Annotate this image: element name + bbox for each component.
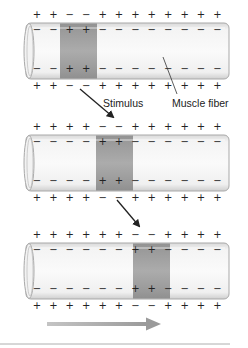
negative-charge: − — [82, 80, 90, 91]
negative-charge: − — [213, 24, 221, 35]
negative-charge: − — [180, 175, 188, 186]
negative-charge: − — [213, 63, 221, 74]
positive-charge: + — [180, 192, 188, 203]
negative-charge: − — [33, 283, 41, 294]
negative-charge: − — [98, 121, 106, 132]
positive-charge: + — [98, 229, 106, 240]
negative-charge: − — [33, 24, 41, 35]
stimulus-label: Stimulus — [103, 97, 143, 109]
negative-charge: − — [180, 63, 188, 74]
negative-charge: − — [131, 229, 139, 240]
positive-charge: + — [98, 80, 106, 91]
negative-charge: − — [213, 175, 221, 186]
positive-charge: + — [180, 9, 188, 20]
negative-charge: − — [164, 136, 172, 147]
negative-charge: − — [197, 283, 205, 294]
positive-charge: + — [98, 136, 106, 147]
positive-charge: + — [49, 192, 57, 203]
positive-charge: + — [33, 121, 41, 132]
negative-charge: − — [131, 175, 139, 186]
positive-charge: + — [49, 300, 57, 311]
negative-charge: − — [180, 244, 188, 255]
negative-charge: − — [98, 244, 106, 255]
negative-charge: − — [213, 136, 221, 147]
negative-charge: − — [197, 63, 205, 74]
propagation-direction-arrow — [47, 318, 161, 331]
negative-charge: − — [197, 136, 205, 147]
positive-charge: + — [49, 9, 57, 20]
negative-charge: − — [115, 192, 123, 203]
positive-charge: + — [33, 9, 41, 20]
negative-charge: − — [148, 175, 156, 186]
positive-charge: + — [148, 121, 156, 132]
negative-charge: − — [197, 244, 205, 255]
positive-charge: + — [148, 9, 156, 20]
positive-charge: + — [82, 192, 90, 203]
negative-charge: − — [98, 24, 106, 35]
positive-charge: + — [82, 300, 90, 311]
positive-charge: + — [197, 229, 205, 240]
negative-charge: − — [33, 175, 41, 186]
outside-top-charges: ++−−++++++++ — [33, 9, 222, 20]
positive-charge: + — [98, 175, 106, 186]
negative-charge: − — [33, 63, 41, 74]
negative-charge: − — [180, 24, 188, 35]
positive-charge: + — [66, 24, 74, 35]
negative-charge: − — [164, 283, 172, 294]
positive-charge: + — [49, 229, 57, 240]
negative-charge: − — [148, 24, 156, 35]
positive-charge: + — [213, 121, 221, 132]
negative-charge: − — [82, 175, 90, 186]
negative-charge: − — [98, 283, 106, 294]
positive-charge: + — [82, 24, 90, 35]
negative-charge: − — [148, 63, 156, 74]
positive-charge: + — [131, 244, 139, 255]
positive-charge: + — [164, 80, 172, 91]
positive-charge: + — [197, 121, 205, 132]
positive-charge: + — [49, 121, 57, 132]
negative-charge: − — [115, 63, 123, 74]
negative-charge: − — [33, 136, 41, 147]
negative-charge: − — [49, 244, 57, 255]
positive-charge: + — [33, 300, 41, 311]
positive-charge: + — [66, 121, 74, 132]
negative-charge: − — [131, 63, 139, 74]
positive-charge: + — [213, 192, 221, 203]
negative-charge: − — [148, 229, 156, 240]
positive-charge: + — [213, 229, 221, 240]
positive-charge: + — [33, 192, 41, 203]
positive-charge: + — [66, 63, 74, 74]
negative-charge: − — [197, 175, 205, 186]
negative-charge: − — [148, 136, 156, 147]
negative-charge: − — [164, 63, 172, 74]
negative-charge: − — [66, 283, 74, 294]
negative-charge: − — [115, 283, 123, 294]
positive-charge: + — [197, 9, 205, 20]
negative-charge: − — [49, 24, 57, 35]
positive-charge: + — [164, 229, 172, 240]
positive-charge: + — [148, 244, 156, 255]
negative-charge: − — [131, 24, 139, 35]
outside-bottom-charges: ++++−−++++++ — [33, 192, 222, 203]
positive-charge: + — [180, 121, 188, 132]
negative-charge: − — [33, 244, 41, 255]
positive-charge: + — [131, 192, 139, 203]
muscle-fiber-stage-2: ++++−−++++++−−−−++−−−−−−−−−−++−−−−−−++++… — [24, 121, 229, 203]
negative-charge: − — [98, 63, 106, 74]
positive-charge: + — [197, 192, 205, 203]
positive-charge: + — [164, 9, 172, 20]
negative-charge: − — [66, 9, 74, 20]
positive-charge: + — [197, 80, 205, 91]
outside-bottom-charges: ++++++−−++++ — [33, 300, 222, 311]
negative-charge: − — [115, 244, 123, 255]
negative-charge: − — [164, 175, 172, 186]
negative-charge: − — [66, 136, 74, 147]
positive-charge: + — [131, 283, 139, 294]
negative-charge: − — [49, 175, 57, 186]
positive-charge: + — [164, 121, 172, 132]
negative-charge: − — [66, 80, 74, 91]
positive-charge: + — [180, 80, 188, 91]
negative-charge: − — [49, 283, 57, 294]
negative-charge: − — [180, 136, 188, 147]
propagation-arrow-2 — [117, 200, 139, 226]
